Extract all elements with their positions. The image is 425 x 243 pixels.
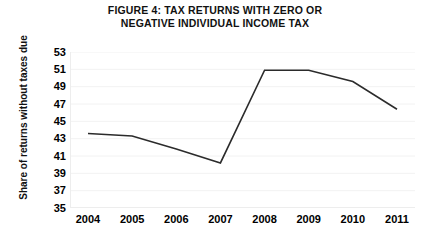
gridlines — [70, 52, 415, 208]
y-axis-tick: 47 — [40, 99, 66, 110]
figure-container: FIGURE 4: TAX RETURNS WITH ZERO OR NEGAT… — [0, 0, 425, 243]
y-axis-tick: 51 — [40, 64, 66, 75]
y-axis-tick-labels: 53514947454341393735 — [40, 52, 66, 208]
x-axis-tick: 2010 — [330, 213, 376, 226]
y-axis-tick: 53 — [40, 47, 66, 58]
plot-area — [70, 52, 415, 208]
x-axis-tick: 2011 — [374, 213, 420, 226]
x-axis-tick-labels: 20042005200620072008200920102011 — [70, 213, 415, 231]
x-axis-tick: 2006 — [153, 213, 199, 226]
chart-title-line-1: FIGURE 4: TAX RETURNS WITH ZERO OR — [50, 4, 380, 17]
y-axis-label: Share of returns without taxes due — [18, 33, 29, 203]
x-axis-tick: 2005 — [109, 213, 155, 226]
data-series-line — [88, 70, 397, 163]
y-axis-tick: 41 — [40, 151, 66, 162]
x-axis-tick: 2004 — [65, 213, 111, 226]
chart-title: FIGURE 4: TAX RETURNS WITH ZERO OR NEGAT… — [50, 4, 380, 30]
x-axis-tick: 2008 — [242, 213, 288, 226]
line-chart-svg — [70, 52, 415, 208]
y-axis-tick: 37 — [40, 185, 66, 196]
y-axis-tick: 35 — [40, 203, 66, 214]
chart-title-line-2: NEGATIVE INDIVIDUAL INCOME TAX — [50, 17, 380, 30]
x-axis-tick: 2009 — [286, 213, 332, 226]
x-axis-tick: 2007 — [197, 213, 243, 226]
y-axis-tick: 39 — [40, 168, 66, 179]
y-axis-tick: 45 — [40, 116, 66, 127]
y-axis-tick: 49 — [40, 81, 66, 92]
y-axis-tick: 43 — [40, 133, 66, 144]
